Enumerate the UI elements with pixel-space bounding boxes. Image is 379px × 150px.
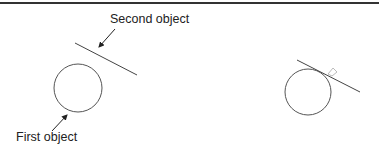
tangent-line — [297, 60, 360, 92]
first-object-arrow — [52, 115, 67, 131]
first-object-circle — [54, 64, 102, 112]
second-object-label: Second object — [110, 12, 189, 26]
second-object-line — [75, 43, 137, 75]
second-object-arrow — [99, 29, 115, 47]
tangent-circle — [285, 69, 331, 115]
first-object-label: First object — [16, 130, 77, 144]
diagram-canvas — [0, 0, 379, 150]
tangent-marker-icon — [328, 68, 337, 76]
